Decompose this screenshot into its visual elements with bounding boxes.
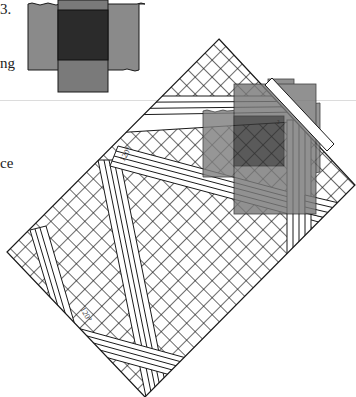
inset-swatch (28, 0, 145, 92)
inset-dark-square (58, 10, 108, 60)
diagram-canvas: 120° 120° ² (0, 0, 356, 397)
